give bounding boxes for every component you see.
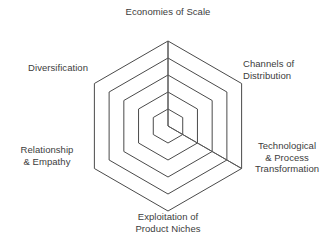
axis-label-relationship-empathy: Relationship& Empathy — [6, 144, 88, 167]
axis-label-tech-line3: Transformation — [255, 163, 319, 174]
axis-label-exploitation-line2: Product Niches — [135, 223, 200, 234]
axis-label-channels-of-distribution: Channels ofDistribution — [243, 58, 331, 81]
axis-label-relationship-line2: & Empathy — [24, 156, 71, 167]
radar-chart-figure: Economies of Scale Channels ofDistributi… — [0, 0, 333, 250]
data-series-0 — [168, 41, 242, 169]
axis-label-tech-line2: & Process — [265, 152, 309, 163]
axis-label-tech-line1: Technological — [258, 140, 316, 151]
axis-label-diversification: Diversification — [4, 62, 88, 74]
axis-label-exploitation-line1: Exploitation of — [138, 211, 198, 222]
axis-label-exploitation-of-product-niches: Exploitation ofProduct Niches — [98, 211, 238, 234]
axis-label-technological-process-transformation: Technological& ProcessTransformation — [241, 140, 333, 175]
axis-label-economies-of-scale: Economies of Scale — [103, 6, 233, 18]
axis-label-relationship-line1: Relationship — [21, 144, 74, 155]
axis-label-channels-line1: Channels of — [243, 58, 294, 69]
radar-data-polygon — [168, 41, 242, 169]
axis-label-channels-line2: Distribution — [243, 70, 291, 81]
